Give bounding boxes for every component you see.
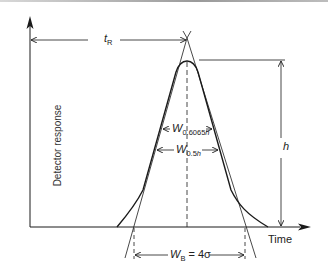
w-inflection-main: W [172, 122, 182, 134]
w-inflection-label: W0.6065h [172, 123, 210, 134]
w-inflection-sub: 0.6065 [182, 128, 205, 137]
retention-time-label: tR [104, 33, 112, 44]
w-base-main: W [170, 248, 180, 260]
retention-time-sub: R [107, 38, 112, 47]
w-inflection-sub-var: h [205, 128, 209, 137]
w-half-label: W0.5h [176, 144, 201, 155]
w-base-sub: B [180, 254, 185, 263]
y-axis [27, 16, 34, 227]
w-base-label: WB = 4σ [170, 249, 211, 260]
x-axis [30, 224, 311, 231]
w-base-rest: = 4σ [185, 248, 210, 260]
w-half-sub: 0.5 [186, 149, 196, 158]
w-half-main: W [176, 143, 186, 155]
x-axis-label: Time [268, 234, 292, 245]
w-half-sub-var: h [197, 149, 201, 158]
y-axis-label: Detector response [52, 91, 63, 201]
height-label: h [283, 141, 289, 152]
